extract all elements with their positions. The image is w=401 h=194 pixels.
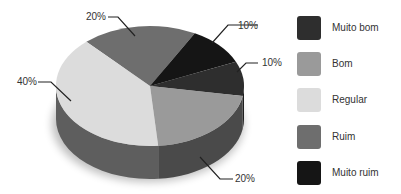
legend-label: Muito bom: [332, 22, 379, 33]
label-muito-ruim: 10%: [238, 20, 258, 32]
label-ruim: 20%: [86, 11, 106, 23]
legend-swatch: [297, 161, 321, 185]
legend-label: Ruim: [332, 131, 355, 142]
legend-label: Muito ruim: [332, 167, 379, 178]
legend-item-ruim: Ruim: [297, 125, 401, 150]
label-bom: 20%: [235, 173, 255, 185]
legend-swatch: [297, 52, 321, 76]
legend-swatch: [297, 125, 321, 149]
legend-swatch: [297, 88, 321, 112]
legend-item-bom: Bom: [297, 52, 401, 77]
legend-label: Regular: [332, 94, 367, 105]
legend-swatch: [297, 16, 321, 40]
label-muito-bom: 10%: [262, 57, 282, 69]
legend-label: Bom: [332, 58, 353, 69]
legend-item-regular: Regular: [297, 88, 401, 113]
legend-item-muito-bom: Muito bom: [297, 16, 401, 41]
legend-item-muito-ruim: Muito ruim: [297, 161, 401, 186]
label-regular: 40%: [17, 76, 37, 88]
